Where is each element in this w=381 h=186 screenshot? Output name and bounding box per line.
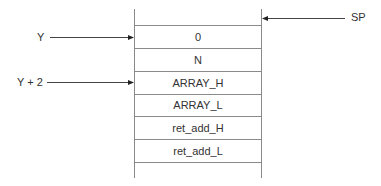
sp-arrow-head-icon (262, 16, 268, 21)
stack-cell-array-l: ARRAY_L (135, 99, 261, 112)
y-label: Y (37, 31, 44, 44)
y-arrow-head-icon (128, 35, 134, 40)
sp-label: SP (351, 11, 366, 24)
y2-arrow-head-icon (128, 80, 134, 85)
y-plus-2-label: Y + 2 (17, 76, 43, 89)
stack-cell-n: N (135, 54, 261, 67)
stack-cell-ret-add-h: ret_add_H (135, 122, 261, 135)
stack-cell-ret-add-l: ret_add_L (135, 145, 261, 158)
stack-cell-array-h: ARRAY_H (135, 77, 261, 90)
stack-diagram (0, 0, 381, 186)
stack-cell-0: 0 (135, 31, 261, 44)
